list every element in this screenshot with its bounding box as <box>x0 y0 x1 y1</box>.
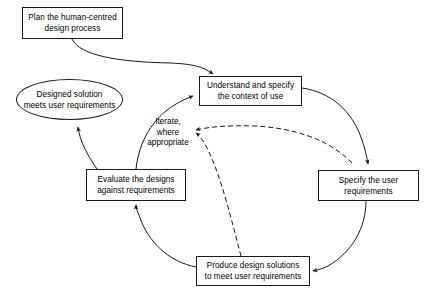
edge-evaluate-to-outcome <box>78 127 97 169</box>
node-label: Plan the human-centred design process <box>25 12 120 34</box>
edge-specify-iterate-back <box>196 126 352 163</box>
node-specify-the-user-requirements[interactable]: Specify the user requirements <box>318 170 419 201</box>
diagram-canvas: Plan the human-centred design process De… <box>0 0 429 295</box>
node-designed-solution-meets-user-requirements[interactable]: Designed solution meets user requirement… <box>16 79 123 120</box>
edge-specify-to-produce <box>313 201 366 271</box>
edge-produce-to-evaluate <box>136 205 196 267</box>
node-label: Specify the user requirements <box>336 175 402 197</box>
node-label: Evaluate the designs against requirement… <box>94 174 177 196</box>
node-label: Understand and specify the context of us… <box>204 80 297 102</box>
node-produce-design-solutions-to-meet-user-requirements[interactable]: Produce design solutions to meet user re… <box>196 256 310 286</box>
node-label: Designed solution meets user requirement… <box>21 89 119 111</box>
annotation-iterate-where-appropriate: Iterate, where appropriate <box>140 117 196 149</box>
edge-plan-to-understand <box>72 39 213 74</box>
edge-layer <box>0 0 429 295</box>
node-label: Produce design solutions to meet user re… <box>202 260 305 282</box>
node-understand-and-specify-the-context-of-use[interactable]: Understand and specify the context of us… <box>199 76 302 106</box>
edge-produce-iterate-back <box>196 133 241 256</box>
node-evaluate-the-designs-against-requirements[interactable]: Evaluate the designs against requirement… <box>86 169 186 201</box>
edge-understand-to-specify <box>302 88 368 164</box>
node-plan-the-human-centred-design-process[interactable]: Plan the human-centred design process <box>22 7 123 39</box>
